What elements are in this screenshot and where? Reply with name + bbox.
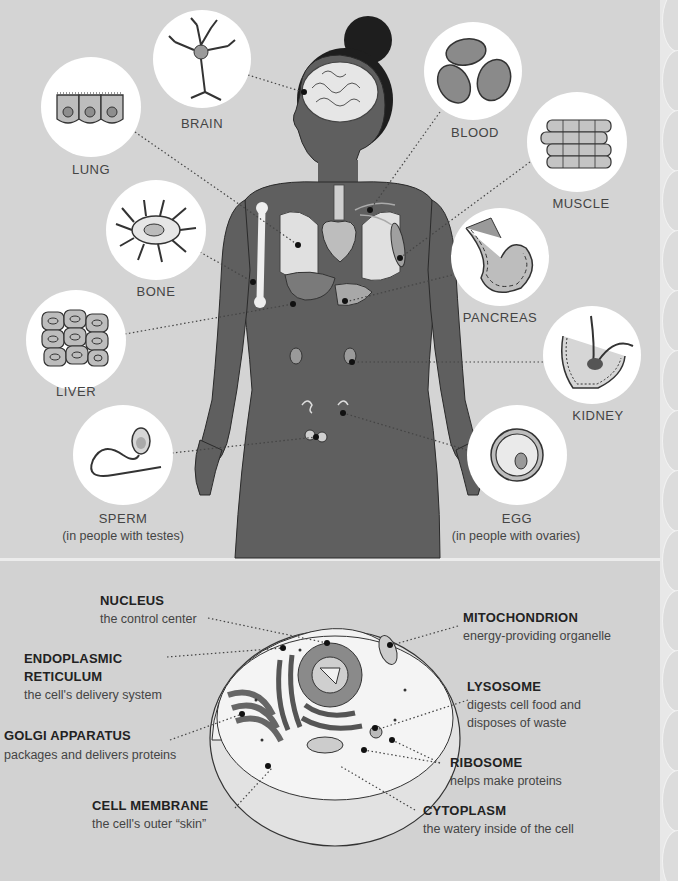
golgi-title: GOLGI APPARATUS <box>4 728 131 743</box>
nucleus-title: NUCLEUS <box>100 593 164 608</box>
nucleus-desc: the control center <box>100 610 197 628</box>
ribo-title: RIBOSOME <box>450 755 522 770</box>
er-title: ENDOPLASMIC <box>24 651 122 666</box>
ribo-desc: helps make proteins <box>450 772 562 790</box>
cyto-desc: the watery inside of the cell <box>423 820 574 838</box>
er-title-line2: RETICULUM <box>24 669 102 684</box>
lyso-title: LYSOSOME <box>467 679 541 694</box>
lyso-desc-1: digests cell food and <box>467 696 581 714</box>
membrane-desc: the cell's outer “skin” <box>92 815 206 833</box>
mito-title: MITOCHONDRION <box>463 610 578 625</box>
lyso-desc-2: disposes of waste <box>467 714 566 732</box>
mito-desc: energy-providing organelle <box>463 627 611 645</box>
membrane-title: CELL MEMBRANE <box>92 798 208 813</box>
anatomy-infographic: BRAIN LUNG BONE LIV <box>0 0 678 881</box>
golgi-desc: packages and delivers proteins <box>4 746 176 764</box>
er-desc: the cell's delivery system <box>24 686 162 704</box>
cyto-title: CYTOPLASM <box>423 803 506 818</box>
